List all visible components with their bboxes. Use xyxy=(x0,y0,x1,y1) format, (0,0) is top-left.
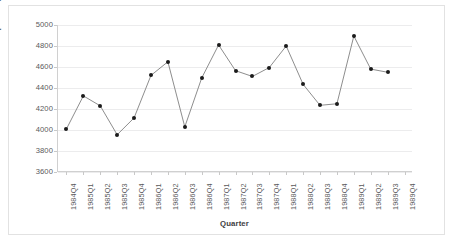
x-axis-tick-label: 1985Q2 xyxy=(103,183,112,210)
x-axis-tick-label: 1986Q4 xyxy=(205,183,214,210)
x-axis-tick-label: 1987Q1 xyxy=(222,183,231,210)
x-axis-tick-mark xyxy=(185,172,186,175)
x-axis-tick-label: 1986Q1 xyxy=(154,183,163,210)
line-series-path xyxy=(58,25,413,172)
x-axis-tick-label: 1989Q3 xyxy=(391,183,400,210)
x-axis-tick-mark xyxy=(354,172,355,175)
data-point[interactable] xyxy=(234,69,238,73)
x-axis-tick-label: 1988Q3 xyxy=(323,183,332,210)
y-axis-tick-mark xyxy=(54,172,57,173)
x-axis-tick-label: 1989Q1 xyxy=(357,183,366,210)
y-axis-tick-label: 3600 xyxy=(13,167,53,176)
x-axis-tick-label: 1988Q1 xyxy=(289,183,298,210)
x-axis-tick-mark xyxy=(168,172,169,175)
x-axis-tick-mark xyxy=(202,172,203,175)
x-axis-tick-label: 1985Q4 xyxy=(137,183,146,210)
x-axis-tick-mark xyxy=(83,172,84,175)
x-axis-tick-mark xyxy=(337,172,338,175)
x-axis-tick-label: 1987Q2 xyxy=(239,183,248,210)
y-axis-tick-label: 4200 xyxy=(13,104,53,113)
data-point[interactable] xyxy=(115,133,119,137)
x-axis-tick-mark xyxy=(320,172,321,175)
data-point[interactable] xyxy=(200,76,204,80)
x-axis-tick-label: 1988Q4 xyxy=(340,183,349,210)
x-axis-tick-label: 1987Q4 xyxy=(272,183,281,210)
data-point[interactable] xyxy=(217,43,221,47)
data-point[interactable] xyxy=(166,60,170,64)
x-axis-tick-mark xyxy=(236,172,237,175)
x-axis-tick-mark xyxy=(388,172,389,175)
chart-container: Shipments ($millions) 500048004600440042… xyxy=(0,0,454,241)
x-axis-tick-mark xyxy=(269,172,270,175)
x-axis-tick-mark xyxy=(100,172,101,175)
x-axis-tick-mark xyxy=(134,172,135,175)
plot-area: 1984Q41985Q11985Q21985Q31985Q41986Q11986… xyxy=(57,25,412,172)
data-point[interactable] xyxy=(335,102,339,106)
x-axis-tick-mark xyxy=(151,172,152,175)
y-axis-tick-label: 4400 xyxy=(13,83,53,92)
x-axis-tick-label: 1985Q3 xyxy=(120,183,129,210)
y-axis-tick-label: 3800 xyxy=(13,146,53,155)
x-axis-tick-label: 1989Q2 xyxy=(374,183,383,210)
x-axis-tick-label: 1989Q4 xyxy=(408,183,417,210)
x-axis-tick-mark xyxy=(117,172,118,175)
x-axis-tick-mark xyxy=(405,172,406,175)
x-axis-tick-mark xyxy=(66,172,67,175)
data-point[interactable] xyxy=(369,67,373,71)
x-axis-tick-label: 1986Q3 xyxy=(188,183,197,210)
x-axis-tick-mark xyxy=(286,172,287,175)
data-point[interactable] xyxy=(267,66,271,70)
x-axis-tick-label: 1986Q2 xyxy=(171,183,180,210)
x-axis-tick-label: 1988Q2 xyxy=(306,183,315,210)
x-axis-tick-label: 1984Q4 xyxy=(69,183,78,210)
y-axis-tick-label: 4000 xyxy=(13,125,53,134)
data-point[interactable] xyxy=(183,125,187,129)
x-axis-tick-mark xyxy=(219,172,220,175)
data-point[interactable] xyxy=(352,34,356,38)
data-point[interactable] xyxy=(386,70,390,74)
x-axis-tick-mark xyxy=(303,172,304,175)
y-axis-title: Shipments ($millions) xyxy=(0,0,1,42)
y-axis-tick-label: 4600 xyxy=(13,62,53,71)
x-axis-tick-label: 1987Q3 xyxy=(255,183,264,210)
x-axis-tick-mark xyxy=(252,172,253,175)
x-axis-tick-label: 1985Q1 xyxy=(86,183,95,210)
x-axis-tick-mark xyxy=(371,172,372,175)
x-axis-title: Quarter xyxy=(57,219,412,228)
data-point[interactable] xyxy=(132,116,136,120)
y-axis-tick-label: 5000 xyxy=(13,20,53,29)
y-axis-tick-label: 4800 xyxy=(13,41,53,50)
